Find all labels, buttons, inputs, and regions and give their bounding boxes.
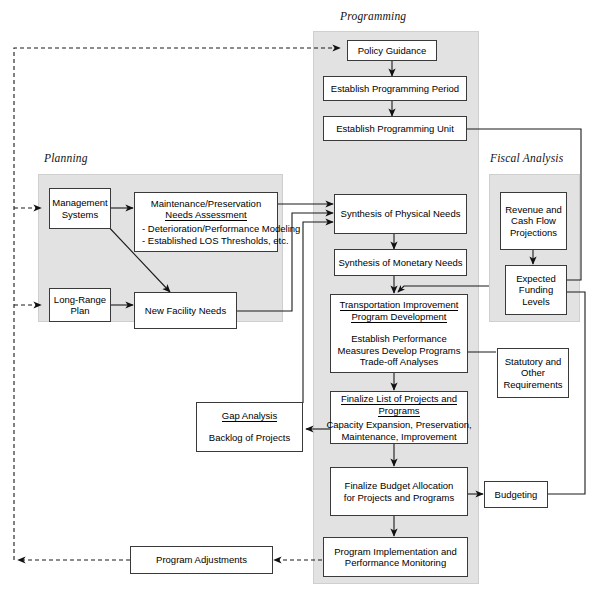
finalize-list-title-line-1: Programs: [378, 405, 419, 417]
flowchart-canvas: Planning Programming Fiscal Analysis: [0, 0, 597, 600]
finalize-budget-line-1: for Projects and Programs: [344, 492, 454, 504]
statutory-line-2: Requirements: [503, 379, 562, 391]
maintenance-bullet-0: - Deterioration/Performance Modeling: [142, 223, 275, 235]
budgeting-line-0: Budgeting: [495, 489, 538, 501]
node-synthesis-monetary-needs[interactable]: Synthesis of Monetary Needs: [334, 249, 467, 276]
node-program-adjustments[interactable]: Program Adjustments: [130, 546, 273, 574]
expected-funding-line-0: Expected: [516, 273, 556, 285]
node-establish-programming-period[interactable]: Establish Programming Period: [323, 76, 467, 101]
maintenance-bullets: - Deterioration/Performance Modeling - E…: [137, 223, 275, 246]
finalize-list-body-line-1: Maintenance, Improvement: [341, 431, 456, 443]
node-new-facility-needs[interactable]: New Facility Needs: [134, 292, 237, 329]
establish-period-line-0: Establish Programming Period: [331, 83, 459, 95]
edge-gap-to-synthesis: [303, 222, 333, 403]
node-maintenance-preservation-needs[interactable]: Maintenance/Preservation Needs Assessmen…: [134, 192, 278, 252]
node-budgeting[interactable]: Budgeting: [484, 481, 548, 508]
node-revenue-cash-flow-projections[interactable]: Revenue and Cash Flow Projections: [500, 192, 567, 250]
revenue-line-0: Revenue and: [505, 204, 562, 216]
finalize-list-title-line-0: Finalize List of Projects and: [341, 393, 457, 405]
node-finalize-budget-allocation[interactable]: Finalize Budget Allocation for Projects …: [330, 467, 468, 516]
node-finalize-list-of-projects[interactable]: Finalize List of Projects and Programs C…: [330, 391, 468, 444]
revenue-line-2: Projections: [510, 227, 557, 239]
statutory-line-0: Statutory and: [505, 356, 562, 368]
tip-body-line-2: Trade-off Analyses: [360, 356, 439, 368]
node-synthesis-physical-needs[interactable]: Synthesis of Physical Needs: [334, 194, 467, 234]
node-policy-guidance[interactable]: Policy Guidance: [347, 40, 437, 61]
long-range-plan-line-1: Plan: [70, 305, 89, 317]
finalize-list-body-line-0: Capacity Expansion, Preservation,: [326, 419, 471, 431]
node-establish-programming-unit[interactable]: Establish Programming Unit: [323, 116, 467, 141]
revenue-line-1: Cash Flow: [511, 215, 556, 227]
node-long-range-plan[interactable]: Long-Range Plan: [49, 288, 111, 322]
finalize-budget-line-0: Finalize Budget Allocation: [345, 480, 454, 492]
expected-funding-line-1: Funding: [519, 284, 553, 296]
maintenance-title-line-1: Needs Assessment: [165, 209, 246, 221]
edge-funding-to-tip: [398, 286, 489, 292]
program-implementation-line-1: Performance Monitoring: [345, 557, 446, 569]
synthesis-physical-line-0: Synthesis of Physical Needs: [341, 208, 461, 220]
establish-unit-line-0: Establish Programming Unit: [336, 123, 454, 135]
synthesis-monetary-line-0: Synthesis of Monetary Needs: [338, 257, 462, 269]
expected-funding-line-2: Levels: [522, 296, 549, 308]
node-expected-funding-levels[interactable]: Expected Funding Levels: [505, 265, 567, 315]
program-adjustments-line-0: Program Adjustments: [156, 554, 247, 566]
management-systems-line-0: Management: [52, 197, 107, 209]
policy-guidance-line-0: Policy Guidance: [358, 45, 427, 57]
tip-title-line-1: Program Development: [351, 311, 446, 323]
tip-title-line-0: Transportation Improvement: [340, 299, 459, 311]
gap-analysis-body-line-0: Backlog of Projects: [209, 432, 290, 444]
maintenance-title-line-0: Maintenance/Preservation: [151, 198, 261, 210]
node-management-systems[interactable]: Management Systems: [49, 188, 111, 229]
program-implementation-line-0: Program Implementation and: [334, 546, 457, 558]
tip-body-line-0: Establish Performance: [351, 333, 447, 345]
maintenance-bullet-1: - Established LOS Thresholds, etc.: [142, 235, 275, 247]
management-systems-line-1: Systems: [62, 209, 98, 221]
tip-body-line-1: Measures Develop Programs: [337, 345, 460, 357]
node-program-implementation[interactable]: Program Implementation and Performance M…: [323, 537, 468, 577]
node-gap-analysis[interactable]: Gap Analysis Backlog of Projects: [196, 402, 303, 452]
new-facility-needs-line-0: New Facility Needs: [145, 305, 226, 317]
statutory-line-1: Other: [521, 367, 545, 379]
long-range-plan-line-0: Long-Range: [54, 294, 106, 306]
node-tip-development[interactable]: Transportation Improvement Program Devel…: [330, 294, 468, 373]
node-statutory-other-requirements[interactable]: Statutory and Other Requirements: [497, 348, 569, 398]
gap-analysis-title: Gap Analysis: [199, 410, 300, 422]
